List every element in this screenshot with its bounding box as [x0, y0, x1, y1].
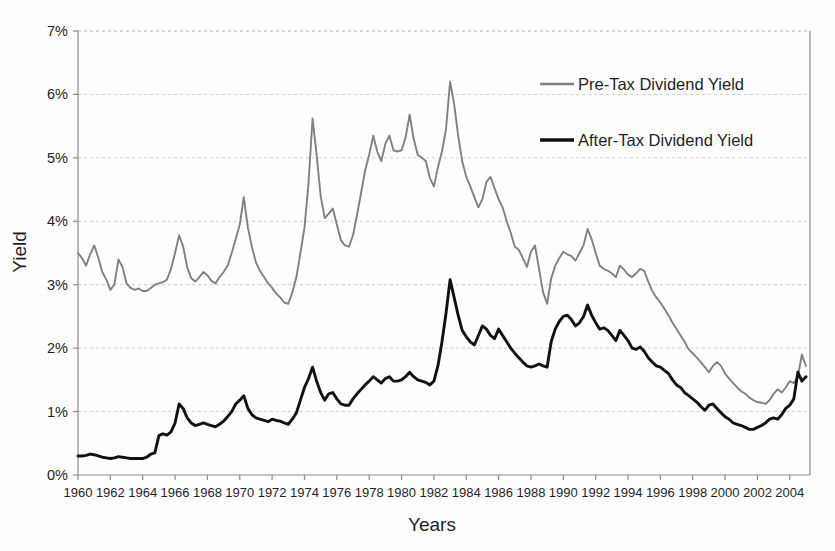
y-tick-labels: 0%1%2%3%4%5%6%7%: [47, 23, 68, 483]
x-tick-label: 1998: [678, 485, 707, 500]
y-tick-label: 0%: [47, 467, 68, 483]
x-tick-label: 2000: [711, 485, 740, 500]
y-tick-label: 5%: [47, 150, 68, 166]
x-tick-label: 1994: [614, 485, 643, 500]
x-tick-labels: 1960196219641966196819701972197419761978…: [64, 485, 805, 500]
dividend-yield-chart: 0%1%2%3%4%5%6%7% 19601962196419661968197…: [0, 0, 835, 551]
y-tick-label: 1%: [47, 404, 68, 420]
x-tick-label: 1988: [516, 485, 545, 500]
x-tick-label: 1962: [96, 485, 125, 500]
legend-label: After-Tax Dividend Yield: [578, 131, 753, 149]
x-tick-label: 1986: [484, 485, 513, 500]
y-tick-label: 7%: [47, 23, 68, 39]
x-axis: [78, 31, 810, 480]
x-tick-label: 1982: [419, 485, 448, 500]
x-tick-label: 1996: [646, 485, 675, 500]
legend-label: Pre-Tax Dividend Yield: [578, 75, 744, 93]
series-line: [78, 280, 806, 459]
chart-canvas: 0%1%2%3%4%5%6%7% 19601962196419661968197…: [0, 0, 835, 551]
y-tick-label: 6%: [47, 86, 68, 102]
x-tick-label: 1970: [225, 485, 254, 500]
x-tick-label: 1972: [258, 485, 287, 500]
x-tick-label: 2002: [743, 485, 772, 500]
x-tick-label: 1960: [64, 485, 93, 500]
x-tick-label: 1968: [193, 485, 222, 500]
x-tick-label: 1974: [290, 485, 319, 500]
x-tick-label: 2004: [775, 485, 804, 500]
x-tick-label: 1980: [387, 485, 416, 500]
x-tick-label: 1976: [322, 485, 351, 500]
x-axis-title: Years: [408, 514, 456, 535]
y-tick-label: 2%: [47, 340, 68, 356]
y-axis-title: Yield: [9, 231, 30, 273]
x-tick-label: 1992: [581, 485, 610, 500]
x-tick-label: 1964: [128, 485, 157, 500]
x-tick-label: 1990: [549, 485, 578, 500]
y-tick-label: 4%: [47, 213, 68, 229]
legend: Pre-Tax Dividend YieldAfter-Tax Dividend…: [540, 75, 753, 149]
y-tick-label: 3%: [47, 277, 68, 293]
x-tick-label: 1984: [452, 485, 481, 500]
x-tick-label: 1966: [161, 485, 190, 500]
x-tick-label: 1978: [355, 485, 384, 500]
